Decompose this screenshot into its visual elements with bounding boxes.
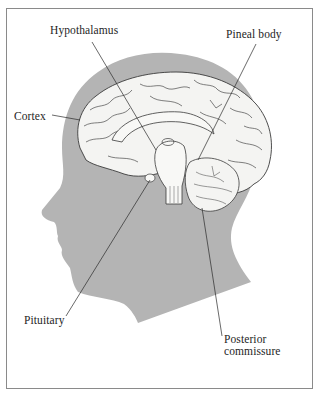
label-hypothalamus: Hypothalamus	[50, 24, 118, 36]
label-posterior-commissure-line1: Posterior	[224, 333, 266, 345]
label-pineal-body: Pineal body	[226, 28, 282, 40]
label-cortex: Cortex	[14, 110, 46, 122]
label-pituitary: Pituitary	[24, 314, 65, 326]
label-posterior-commissure-line2: commissure	[224, 345, 281, 357]
brain-diagram	[0, 0, 320, 395]
pituitary-gland	[145, 174, 155, 182]
